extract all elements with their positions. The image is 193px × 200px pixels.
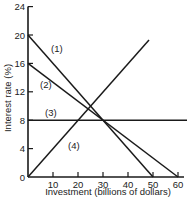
y-tick-label: 4 — [20, 143, 25, 154]
series-label-4: (4) — [68, 140, 80, 151]
series-label-3: (3) — [45, 107, 57, 118]
x-tick-label: 60 — [173, 179, 184, 190]
y-tick-label: 24 — [14, 1, 25, 12]
x-axis-title: Investment (billions of dollars) — [45, 186, 171, 197]
interest-investment-chart: 04812162024102030405060 (1)(2)(3)(4) Inv… — [0, 0, 193, 200]
y-tick-label: 16 — [14, 58, 25, 69]
y-tick-label: 8 — [20, 115, 25, 126]
series-label-1: (1) — [51, 43, 63, 54]
y-tick-label: 0 — [20, 172, 25, 183]
y-tick-label: 20 — [14, 30, 25, 41]
y-axis-title: Interest rate (%) — [2, 64, 13, 132]
y-tick-label: 12 — [14, 86, 25, 97]
series-label-2: (2) — [40, 79, 52, 90]
chart-canvas: 04812162024102030405060 (1)(2)(3)(4) Inv… — [0, 0, 193, 200]
series-labels: (1)(2)(3)(4) — [40, 43, 80, 151]
